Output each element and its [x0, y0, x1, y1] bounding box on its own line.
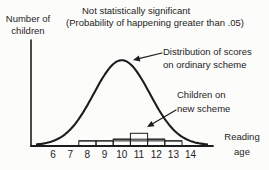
curve-annotation-label: Distribution of scores on ordinary schem…	[163, 45, 252, 71]
histogram-bar	[148, 139, 165, 146]
x-tick-label: 13	[168, 149, 180, 160]
new-scheme-histogram	[79, 133, 182, 146]
figure-title-line2: (Probability of happening greater than .…	[66, 17, 244, 29]
x-tick-label: 8	[85, 149, 91, 160]
x-axis-label: Reading age	[215, 129, 269, 159]
y-axis-label: Number of children	[2, 13, 54, 37]
x-tick-label: 14	[185, 149, 197, 160]
histogram-annotation-label: Children on new scheme	[177, 88, 230, 116]
histogram-bar	[130, 133, 147, 146]
figure-title: Not statistically significant (Probabili…	[66, 5, 244, 29]
x-axis-label-line2: age	[215, 144, 269, 159]
x-axis-label-line1: Reading	[215, 129, 269, 144]
figure-title-line1: Not statistically significant	[82, 5, 244, 17]
x-tick-label: 10	[116, 149, 128, 160]
curve-annotation-arrow	[139, 53, 162, 59]
histogram-annotation-arrow	[152, 110, 176, 124]
x-tick-label: 11	[134, 149, 145, 160]
figure: 67891011121314 Number of children Not st…	[0, 0, 269, 170]
y-axis-label-line2: children	[2, 25, 54, 37]
curve-annotation-arrow-head	[133, 55, 140, 61]
x-tick-label: 7	[67, 149, 73, 160]
y-axis-label-line1: Number of	[2, 13, 54, 25]
x-tick-label: 9	[102, 149, 108, 160]
histogram-annotation-line2: new scheme	[177, 102, 230, 116]
curve-annotation-line2: on ordinary scheme	[163, 58, 252, 71]
curve-annotation-line1: Distribution of scores	[163, 45, 252, 58]
x-tick-label: 6	[50, 149, 56, 160]
x-tick-label: 12	[151, 149, 163, 160]
histogram-bar	[113, 139, 130, 146]
histogram-annotation-line1: Children on	[177, 88, 230, 102]
